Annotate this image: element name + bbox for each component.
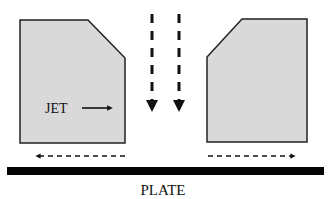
jet-flow-down-arrows	[152, 14, 179, 106]
left-nozzle-block	[20, 20, 125, 143]
right-nozzle-block	[207, 19, 307, 142]
plate-bar	[7, 167, 324, 175]
plate-label: PLATE	[141, 182, 186, 198]
jet-impingement-diagram: JET PLATE	[0, 0, 334, 199]
jet-label: JET	[45, 101, 68, 116]
